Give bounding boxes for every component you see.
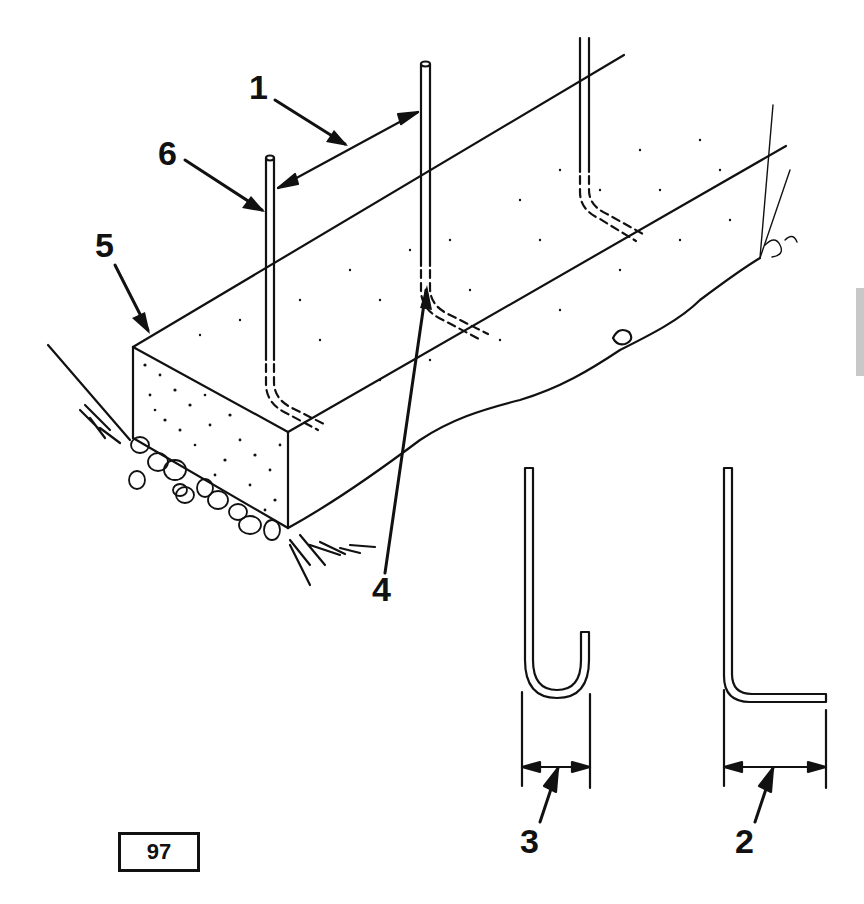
- foundation-diagram: [0, 0, 864, 904]
- concrete-footing: [133, 55, 786, 528]
- callout-3: 3: [520, 824, 539, 858]
- callout-2: 2: [735, 824, 754, 858]
- concrete-texture: [143, 139, 731, 512]
- gravel: [129, 437, 280, 540]
- j-bolt-detail: [522, 468, 590, 822]
- anchor-bolt-front: [266, 156, 324, 431]
- anchor-bolt-back: [580, 38, 643, 241]
- vegetation-sketch: [760, 105, 797, 258]
- callout-5: 5: [95, 228, 114, 262]
- figure-number-box: 97: [118, 832, 200, 872]
- figure-number: 97: [147, 839, 171, 865]
- callout-1: 1: [249, 70, 268, 104]
- callout-4: 4: [372, 572, 391, 606]
- soil: [48, 345, 375, 585]
- callout-6: 6: [158, 136, 177, 170]
- anchor-bolt-middle: [421, 62, 488, 341]
- dimension-1: [278, 112, 418, 188]
- l-bolt-detail: [724, 468, 826, 822]
- page-edge-tab: [856, 288, 864, 376]
